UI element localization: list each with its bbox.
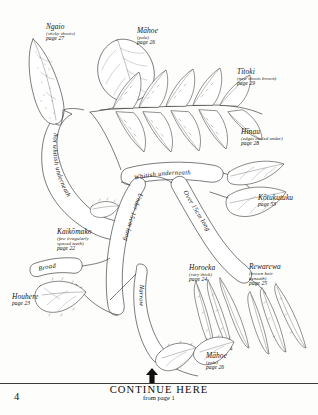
species-name: Horoeka xyxy=(189,264,215,272)
species-label-ngaio: Ngaio (sticky shoots) page 27 xyxy=(46,23,75,42)
species-page: page 23 xyxy=(12,301,38,307)
species-page: page 27 xyxy=(46,36,75,42)
species-page: page 24 xyxy=(189,277,215,283)
page-sheet: Not whitish underneath Whitish underneat… xyxy=(0,0,318,415)
branch-label-narrow: Narrow xyxy=(138,283,146,306)
from-page-label: from page 1 xyxy=(0,394,318,401)
species-label-kaikomako: Kaikōmako (few irregularly spaced teeth)… xyxy=(57,228,92,252)
species-label-kotukutuku: Kōtukutuku page 53 xyxy=(258,194,293,208)
species-page: page 29 xyxy=(237,81,276,87)
species-page: page 53 xyxy=(258,202,293,208)
species-page: page 26 xyxy=(137,40,158,46)
species-label-hinau: Hīnau (edges curled under) page 28 xyxy=(241,128,283,147)
up-arrow-icon xyxy=(145,368,159,384)
leaf-houhere xyxy=(35,278,86,316)
species-page: page 28 xyxy=(241,141,283,147)
species-name: Kaikōmako xyxy=(57,228,92,236)
species-name: Hīnau xyxy=(241,128,283,136)
species-name: Tītoki xyxy=(237,68,276,76)
page-number: 4 xyxy=(14,391,19,402)
leaf-ngaio xyxy=(29,39,64,125)
leaf-kaikomako xyxy=(90,198,119,218)
species-label-mahoe-top: Māhoe (pale) page 26 xyxy=(137,27,158,46)
species-page: page 22 xyxy=(57,246,92,252)
species-label-mahoe-bottom: Māhoe (pale) page 26 xyxy=(206,352,227,371)
species-label-titoki: Tītoki (new shoots brown) page 29 xyxy=(237,68,276,87)
species-page: page 25 xyxy=(249,281,281,287)
species-label-houhere: Houhere page 23 xyxy=(12,293,38,307)
species-page: page 26 xyxy=(206,365,227,371)
species-label-rewarewa: Rewarewa (brown hair beneath) page 25 xyxy=(249,263,281,287)
key-diagram: Not whitish underneath Whitish underneat… xyxy=(0,0,318,415)
species-name: Rewarewa xyxy=(249,263,281,271)
continue-here-block: CONTINUE HERE from page 1 xyxy=(0,384,318,401)
species-label-horoeka: Horoeka (very thick) page 24 xyxy=(189,264,215,283)
leaf-rewarewa xyxy=(248,284,306,354)
species-name: Māhoe xyxy=(206,352,227,360)
species-name: Ngaio xyxy=(46,23,75,31)
species-name: Māhoe xyxy=(137,27,158,35)
leaf-hinau xyxy=(227,161,284,185)
